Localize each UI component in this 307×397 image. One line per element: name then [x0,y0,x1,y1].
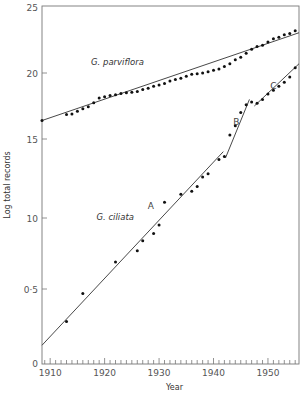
parviflora-point [87,105,90,108]
parviflora-point [239,56,242,59]
ciliata-point [228,134,231,137]
ciliata-point [114,261,117,264]
parviflora-point [250,48,253,51]
parviflora-point [277,36,280,39]
ciliata-point [163,201,166,204]
x-tick-label: 1940 [202,368,225,378]
ciliata-point [261,98,264,101]
y-tick-label: 10 [27,214,39,224]
parviflora-point [272,37,275,40]
parviflora-point [136,90,139,93]
parviflora-point [119,92,122,95]
x-tick-label: 1950 [257,368,280,378]
ciliata-point [152,232,155,235]
y-axis-title: Log total records [3,151,12,218]
ciliata-point [179,193,182,196]
annotation-b: B [233,117,239,127]
y-tick-label: 25 [27,3,38,13]
parviflora-point [190,73,193,76]
ciliata-point [294,66,297,69]
ciliata-trend-line-b [225,99,249,158]
parviflora-point [98,97,101,100]
parviflora-point [256,45,259,48]
plot-frame [42,6,299,364]
parviflora-point [76,110,79,113]
parviflora-point [41,119,44,122]
parviflora-point [196,72,199,75]
parviflora-point [70,112,73,115]
x-tick-label: 1920 [93,368,116,378]
parviflora-point [283,33,286,36]
y-tick-label: 0·5 [24,285,38,295]
x-tick-label: 1910 [39,368,62,378]
parviflora-point [163,82,166,85]
parviflora-point [109,94,112,97]
ciliata-point [283,81,286,84]
ciliata-point [201,175,204,178]
ciliata-point [136,249,139,252]
ciliata-point [217,158,220,161]
y-tick-label: 15 [27,135,38,145]
parviflora-trend-line [42,33,299,121]
ciliata-point [250,101,253,104]
ciliata-point [65,320,68,323]
parviflora-point [179,77,182,80]
parviflora-point [125,91,128,94]
series-label-parviflora: G. parviflora [91,57,144,67]
parviflora-point [234,58,237,61]
parviflora-point [217,68,220,71]
parviflora-point [81,107,84,110]
x-tick-label: 1930 [148,368,171,378]
ciliata-point [239,111,242,114]
ciliata-point [266,93,269,96]
parviflora-point [174,78,177,81]
parviflora-point [185,75,188,78]
parviflora-point [294,29,297,32]
series-label-ciliata: G. ciliata [96,212,134,222]
ciliata-point [190,190,193,193]
ciliata-point [288,75,291,78]
annotation-a: A [148,201,155,211]
chart: 19101920193019401950Year 252015100·50Log… [0,0,307,397]
ciliata-trend-line-a [42,152,223,346]
ciliata-point [207,172,210,175]
annotation-c: C [270,81,276,91]
parviflora-point [103,95,106,98]
ciliata-point [196,185,199,188]
parviflora-point [288,32,291,35]
ciliata-point [245,103,248,106]
axes-box [42,6,299,364]
parviflora-point [92,101,95,104]
parviflora-point [245,52,248,55]
parviflora-point [212,69,215,72]
parviflora-point [65,113,68,116]
x-axis-title: Year [165,383,184,392]
parviflora-point [158,83,161,86]
ciliata-point [141,239,144,242]
parviflora-point [223,65,226,68]
y-tick-label: 0 [32,359,38,369]
parviflora-point [261,44,264,47]
parviflora-point [207,70,210,73]
parviflora-point [130,91,133,94]
parviflora-point [228,62,231,65]
parviflora-point [141,88,144,91]
parviflora-point [147,87,150,90]
ciliata-point [277,85,280,88]
labels: G. parvifloraG. ciliataABC [91,57,277,222]
parviflora-point [266,40,269,43]
parviflora-point [168,79,171,82]
parviflora-point [114,93,117,96]
parviflora-point [201,72,204,75]
ciliata-point [256,102,259,105]
ciliata-point [158,224,161,227]
y-axis: 252015100·50Log total records [3,3,47,369]
x-axis: 19101920193019401950Year [39,358,295,392]
ciliata-point [223,155,226,158]
parviflora-point [152,85,155,88]
y-tick-label: 20 [27,69,39,79]
ciliata-point [81,292,84,295]
data-points [41,29,297,323]
